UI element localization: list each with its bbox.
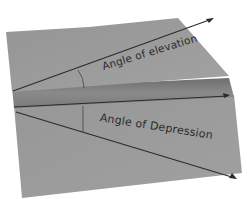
folded-paper-photo: Angle of elevation Angle of Depression — [0, 0, 248, 199]
arrow-head-icon — [206, 18, 214, 23]
bottom-panel — [14, 95, 242, 198]
